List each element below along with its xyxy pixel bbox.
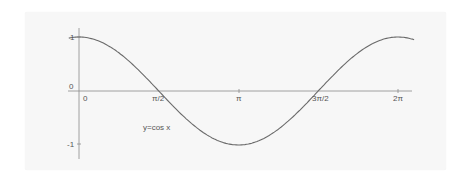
y-label-0: 0 (69, 82, 74, 91)
x-label-2pi: 2π (393, 94, 403, 103)
curve-label: y=cos x (143, 123, 170, 132)
x-label-3pi-2: 3π/2 (312, 94, 329, 103)
x-label-pi-2: π/2 (152, 94, 165, 103)
y-label-neg1: -1 (67, 140, 75, 149)
x-label-pi: π (236, 94, 242, 103)
y-label-1: 1 (70, 33, 75, 42)
cosine-chart: 1 0 -1 0 π/2 π 3π/2 2π y=cos x (0, 0, 468, 186)
x-label-0: 0 (83, 94, 88, 103)
